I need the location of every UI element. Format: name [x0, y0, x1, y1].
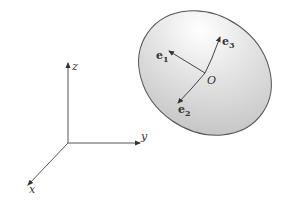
x-axis — [28, 143, 68, 185]
origin-label: O — [207, 74, 216, 87]
diagram-canvas: O e1 e3 e2 z y x — [0, 0, 291, 210]
y-axis-label: y — [140, 130, 148, 143]
global-axes — [28, 63, 140, 185]
z-axis-label: z — [71, 60, 78, 73]
x-axis-label: x — [29, 183, 36, 196]
